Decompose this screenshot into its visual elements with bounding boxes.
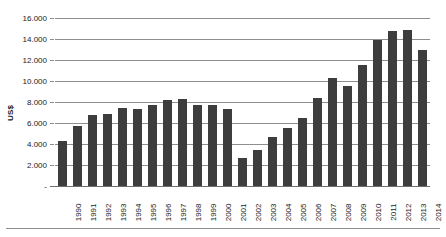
y-axis-tick-mark xyxy=(50,39,54,40)
y-axis-tick-label: 6.000 xyxy=(5,119,47,128)
y-axis-tick-label: 2.000 xyxy=(5,161,47,170)
bar xyxy=(313,98,322,186)
y-axis-tick-mark xyxy=(50,123,54,124)
bar xyxy=(328,78,337,186)
y-axis-tick-label: 4.000 xyxy=(5,140,47,149)
y-axis-tick-mark xyxy=(50,144,54,145)
bar xyxy=(268,137,277,186)
bar xyxy=(133,109,142,186)
y-axis-tick-mark xyxy=(50,102,54,103)
bar-series xyxy=(55,18,430,186)
bar xyxy=(58,141,67,186)
footer-divider xyxy=(6,228,440,229)
y-axis-tick-mark xyxy=(50,60,54,61)
x-axis-tick-label: 2014 xyxy=(434,204,443,237)
bar xyxy=(403,30,412,186)
bar xyxy=(358,65,367,186)
bar xyxy=(223,109,232,186)
bar xyxy=(103,114,112,186)
x-axis-line xyxy=(50,186,430,187)
y-axis-tick-label: 12.000 xyxy=(5,56,47,65)
y-axis-tick-label: - xyxy=(5,182,47,191)
y-axis-tick-mark xyxy=(50,81,54,82)
bar xyxy=(118,108,127,186)
bar xyxy=(208,105,217,186)
y-axis-tick-mark xyxy=(50,165,54,166)
bar xyxy=(343,86,352,186)
bar xyxy=(73,126,82,186)
bar xyxy=(283,128,292,186)
y-axis-tick-label: 16.000 xyxy=(5,14,47,23)
bar xyxy=(178,99,187,186)
y-axis-tick-label: 8.000 xyxy=(5,98,47,107)
bar xyxy=(298,118,307,186)
bar xyxy=(418,50,427,187)
x-axis-tick-labels: 1990199119921993199419951996199719981999… xyxy=(55,188,430,222)
bar xyxy=(148,105,157,186)
bar xyxy=(88,115,97,186)
y-axis-tick-mark xyxy=(50,18,54,19)
bar xyxy=(163,100,172,186)
bar-chart-figure: US$ -2.0004.0006.0008.00010.00012.00014.… xyxy=(0,0,446,236)
bar xyxy=(388,31,397,186)
bar xyxy=(253,150,262,186)
bar xyxy=(193,105,202,186)
y-axis-tick-label: 10.000 xyxy=(5,77,47,86)
bar xyxy=(373,40,382,186)
y-axis-tick-label: 14.000 xyxy=(5,35,47,44)
x-axis-tick: 2014 xyxy=(415,188,446,222)
bar xyxy=(238,158,247,186)
